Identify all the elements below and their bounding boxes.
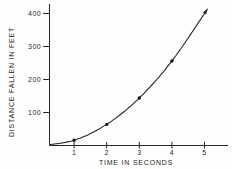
y-tick-label-100: 100 <box>28 109 41 116</box>
data-point-t4 <box>170 59 173 62</box>
free-fall-distance-chart: TIME IN SECONDS DISTANCE FALLEN IN FEET … <box>0 0 232 169</box>
x-axis-title: TIME IN SECONDS <box>99 159 173 166</box>
x-tick-label-3: 3 <box>137 149 141 156</box>
data-point-t2 <box>105 123 108 126</box>
data-point-t3 <box>138 96 141 99</box>
x-tick-label-4: 4 <box>170 149 174 156</box>
x-tick-label-1: 1 <box>72 149 76 156</box>
y-tick-label-400: 400 <box>28 10 41 17</box>
x-tick-label-2: 2 <box>105 149 109 156</box>
distance-curve <box>51 14 205 145</box>
y-tick-label-200: 200 <box>28 76 41 83</box>
y-axis-title: DISTANCE FALLEN IN FEET <box>8 27 15 137</box>
chart-canvas: TIME IN SECONDS DISTANCE FALLEN IN FEET … <box>0 0 232 169</box>
curve-arrowhead <box>203 8 208 15</box>
x-tick-label-5: 5 <box>202 149 206 156</box>
data-point-t1 <box>72 139 75 142</box>
y-tick-label-300: 300 <box>28 43 41 50</box>
